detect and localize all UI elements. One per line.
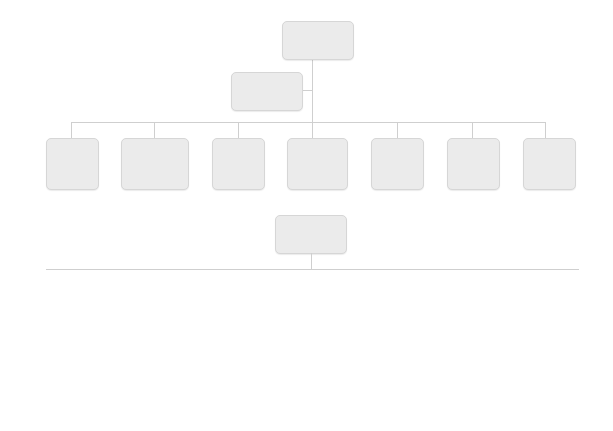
connector xyxy=(71,122,72,138)
region-box-netherlands xyxy=(121,138,189,190)
region-box-north-america xyxy=(447,138,500,190)
corporate-departments-box-bottom xyxy=(275,215,347,254)
connector xyxy=(311,253,312,269)
connector xyxy=(545,122,546,138)
region-box-export xyxy=(523,138,576,190)
connector xyxy=(46,269,579,270)
connector xyxy=(472,122,473,138)
connector xyxy=(312,118,313,138)
connector xyxy=(397,122,398,138)
connector xyxy=(312,58,313,118)
connector xyxy=(238,122,239,138)
executive-committee-box xyxy=(282,21,354,60)
region-box-france xyxy=(212,138,265,190)
connector xyxy=(154,122,155,138)
connector xyxy=(71,122,545,123)
region-box-belgium xyxy=(46,138,99,190)
region-box-northern-eastern-europe xyxy=(287,138,348,190)
connector xyxy=(302,90,312,91)
corporate-departments-box xyxy=(231,72,303,111)
region-box-uk xyxy=(371,138,424,190)
